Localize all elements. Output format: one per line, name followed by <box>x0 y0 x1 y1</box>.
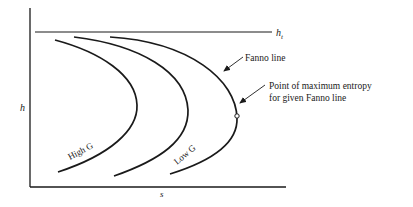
fanno-line-label: Fanno line <box>245 53 285 63</box>
fanno-diagram: h s ht Fanno line Point of maximum entro… <box>0 0 413 207</box>
max-entropy-point <box>235 114 239 118</box>
stagnation-label: ht <box>276 27 284 41</box>
y-axis-label: h <box>20 102 25 113</box>
stagnation-label-sub: t <box>281 33 284 41</box>
middle-fanno-line <box>74 37 188 176</box>
low-g-fanno-line <box>110 37 237 174</box>
max-entropy-arrow <box>240 85 265 103</box>
max-entropy-label-line1: Point of maximum entropy <box>269 81 372 91</box>
x-axis-label: s <box>160 189 164 199</box>
low-g-label: Low G <box>172 142 198 166</box>
max-entropy-label-line2: for given Fanno line <box>269 93 346 103</box>
fanno-line-arrow <box>224 57 243 71</box>
